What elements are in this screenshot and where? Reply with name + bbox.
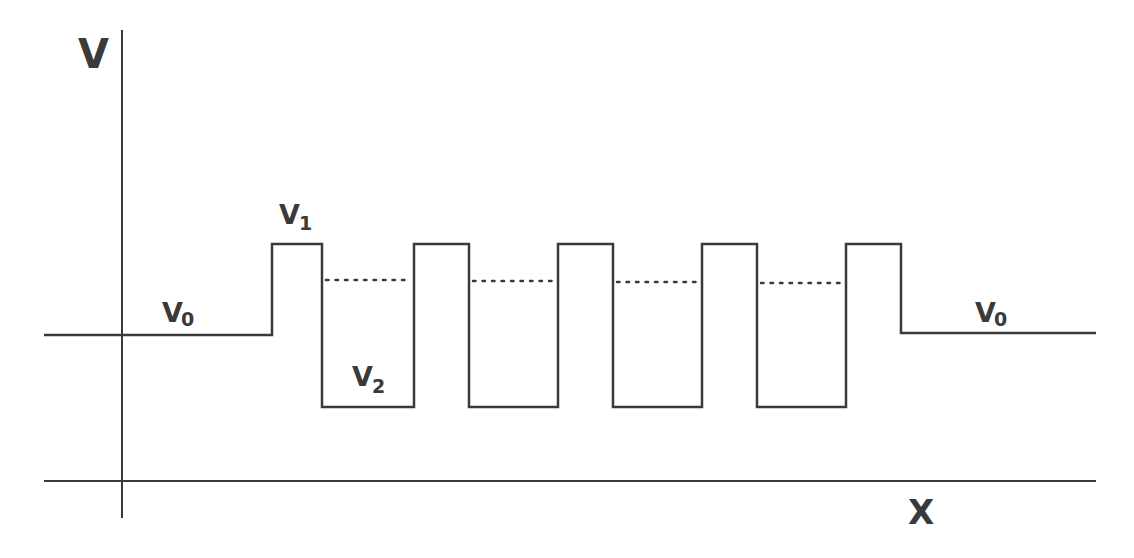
v1-label: V1 (279, 199, 312, 234)
x-axis-label: X (908, 492, 934, 532)
v0-left-label: V0 (162, 297, 194, 330)
y-axis-label: V (78, 31, 109, 77)
v2-label: V2 (352, 361, 385, 397)
energy-level-dotted-lines (326, 280, 843, 283)
potential-profile (44, 244, 1096, 407)
v0-right-label: V0 (975, 297, 1007, 330)
potential-diagram: V X V0 V1 V2 V0 (0, 0, 1134, 558)
